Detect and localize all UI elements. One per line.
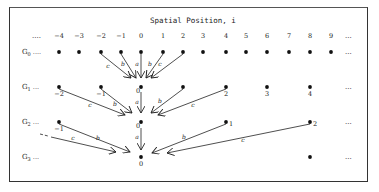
node-label: 2 bbox=[313, 120, 317, 128]
node-dot bbox=[119, 50, 123, 54]
node-dot bbox=[181, 85, 185, 89]
weight-label: b bbox=[121, 60, 125, 67]
level-row-g3: G3 ...0... bbox=[22, 153, 352, 168]
weight-arrow bbox=[59, 124, 130, 152]
position-label: 5 bbox=[244, 32, 248, 40]
node-dot bbox=[224, 50, 228, 54]
pyramid-diagram: Spatial Position, i ....−4−3−2−101234567… bbox=[0, 0, 379, 192]
node-dot bbox=[329, 50, 333, 54]
diagram-title: Spatial Position, i bbox=[150, 16, 236, 25]
node-label: 0 bbox=[136, 87, 140, 95]
position-label: 7 bbox=[287, 32, 291, 40]
node-dot bbox=[181, 50, 185, 54]
node-dot bbox=[287, 50, 291, 54]
level-label: G3 ... bbox=[22, 153, 39, 162]
weight-arrow bbox=[51, 137, 116, 152]
node-dot bbox=[265, 85, 269, 89]
position-label: −2 bbox=[96, 32, 106, 40]
weight-label: b bbox=[96, 134, 100, 141]
node-dot bbox=[57, 50, 61, 54]
row-trailer: ... bbox=[345, 118, 352, 126]
node-label: 0 bbox=[139, 160, 143, 168]
position-label: 6 bbox=[265, 32, 269, 40]
node-dot bbox=[139, 50, 143, 54]
weight-label: c bbox=[191, 101, 195, 108]
level-label: G1 ... bbox=[22, 83, 39, 92]
header-trailer: ... bbox=[345, 32, 352, 40]
weight-label: a bbox=[135, 98, 139, 105]
position-label: 3 bbox=[201, 32, 205, 40]
node-dot bbox=[99, 85, 103, 89]
level-label: G2 ... bbox=[22, 118, 39, 127]
node-dot bbox=[308, 155, 312, 159]
node-dot bbox=[308, 85, 312, 89]
level-row-g1: G1 ...−2−10234... bbox=[22, 83, 352, 98]
node-label: 3 bbox=[265, 90, 269, 98]
node-label: −1 bbox=[96, 90, 106, 98]
node-label: 2 bbox=[224, 90, 228, 98]
node-label: 0 bbox=[136, 122, 140, 130]
position-label: −4 bbox=[54, 32, 64, 40]
position-header-row: ....−4−3−2−10123456789... bbox=[32, 32, 352, 40]
position-label: 4 bbox=[224, 32, 228, 40]
weight-label: b bbox=[113, 100, 117, 107]
node-dot bbox=[57, 120, 61, 124]
weight-label: c bbox=[106, 62, 110, 69]
weight-arrow bbox=[151, 89, 183, 113]
position-label: 1 bbox=[161, 32, 165, 40]
weight-label: b bbox=[148, 60, 152, 67]
weight-label: b bbox=[158, 97, 162, 104]
node-dot bbox=[99, 50, 103, 54]
node-dot bbox=[77, 50, 81, 54]
row-trailer: ... bbox=[345, 153, 352, 161]
node-dot bbox=[308, 50, 312, 54]
arrows-layer: cbabccbabcbcabc bbox=[40, 54, 310, 153]
row-trailer: ... bbox=[345, 48, 352, 56]
weight-label: b bbox=[182, 133, 186, 140]
position-label: −1 bbox=[116, 32, 126, 40]
node-label: 4 bbox=[308, 90, 312, 98]
node-dot bbox=[265, 50, 269, 54]
position-label: −3 bbox=[74, 32, 84, 40]
node-dot bbox=[244, 50, 248, 54]
arrow-dash bbox=[40, 134, 48, 136]
node-dot bbox=[224, 85, 228, 89]
position-label: 0 bbox=[139, 32, 143, 40]
header-leader: .... bbox=[32, 32, 41, 40]
node-dot bbox=[139, 155, 143, 159]
node-label: 1 bbox=[229, 120, 233, 128]
node-dot bbox=[308, 120, 312, 124]
node-dot bbox=[57, 85, 61, 89]
row-trailer: ... bbox=[345, 83, 352, 91]
node-dot bbox=[224, 120, 228, 124]
weight-label: c bbox=[71, 134, 75, 141]
weight-label: a bbox=[135, 60, 139, 67]
position-label: 2 bbox=[181, 32, 185, 40]
level-row-g0: G0 ....... bbox=[22, 48, 352, 57]
weight-arrow bbox=[151, 54, 183, 78]
node-label: −1 bbox=[54, 125, 64, 133]
position-label: 9 bbox=[329, 32, 333, 40]
position-label: 8 bbox=[308, 32, 312, 40]
level-rows: G0 .......G1 ...−2−10234...G2 ...−1012..… bbox=[22, 48, 352, 168]
node-label: −2 bbox=[54, 90, 64, 98]
weight-label: c bbox=[158, 60, 162, 67]
level-label: G0 .... bbox=[22, 48, 41, 57]
weight-label: a bbox=[135, 133, 139, 140]
node-dot bbox=[161, 50, 165, 54]
node-dot bbox=[201, 50, 205, 54]
